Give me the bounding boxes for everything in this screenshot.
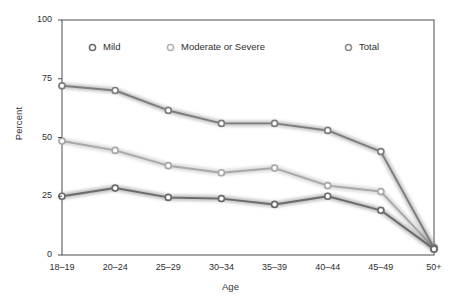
series-layer	[59, 83, 437, 252]
x-tick-label-30-34: 30–34	[191, 262, 251, 272]
data-point	[272, 120, 278, 126]
data-point	[378, 207, 384, 213]
legend-item-mild[interactable]: Mild	[88, 40, 120, 54]
data-point	[325, 193, 331, 199]
legend-label-total: Total	[359, 40, 379, 54]
data-point	[218, 196, 224, 202]
data-point	[59, 138, 65, 144]
x-tick-label-25-29: 25–29	[138, 262, 198, 272]
legend-item-moderate-or-severe[interactable]: Moderate or Severe	[166, 40, 265, 54]
y-tick-label-25: 25	[26, 190, 52, 200]
data-point	[218, 170, 224, 176]
x-tick-label-40-44: 40–44	[298, 262, 358, 272]
legend-label-moderate-or-severe: Moderate or Severe	[181, 40, 265, 54]
legend-marker-moderate-or-severe-icon	[166, 43, 175, 52]
data-point	[378, 149, 384, 155]
plot-frame	[62, 20, 434, 255]
x-tick-label-45-49: 45–49	[351, 262, 411, 272]
y-tick-label-100: 100	[26, 14, 52, 24]
data-point	[112, 88, 118, 94]
y-axis-title: Percent	[13, 79, 24, 169]
data-point	[378, 189, 384, 195]
data-point	[112, 185, 118, 191]
data-point	[325, 183, 331, 189]
data-point	[431, 246, 437, 252]
data-point	[112, 147, 118, 153]
data-point	[272, 165, 278, 171]
axis-tick-marks	[58, 20, 62, 255]
x-tick-label-18-19: 18–19	[32, 262, 92, 272]
data-point	[218, 120, 224, 126]
data-point	[165, 194, 171, 200]
legend-item-total[interactable]: Total	[344, 40, 379, 54]
data-point	[272, 201, 278, 207]
x-tick-label-35-39: 35–39	[245, 262, 305, 272]
legend-label-mild: Mild	[103, 40, 120, 54]
y-tick-label-75: 75	[26, 73, 52, 83]
data-point	[165, 163, 171, 169]
legend-marker-mild-icon	[88, 43, 97, 52]
data-point	[165, 107, 171, 113]
legend-marker-total-icon	[344, 43, 353, 52]
x-axis-title: Age	[0, 281, 461, 292]
y-tick-label-50: 50	[26, 132, 52, 142]
x-tick-label-20-24: 20–24	[85, 262, 145, 272]
data-point	[59, 83, 65, 89]
y-tick-label-0: 0	[26, 249, 52, 259]
x-tick-label-50-plus: 50+	[404, 262, 461, 272]
chart-container: 100 75 50 25 0 18–19 20–24 25–29 30–34 3…	[0, 0, 461, 301]
data-point	[325, 127, 331, 133]
